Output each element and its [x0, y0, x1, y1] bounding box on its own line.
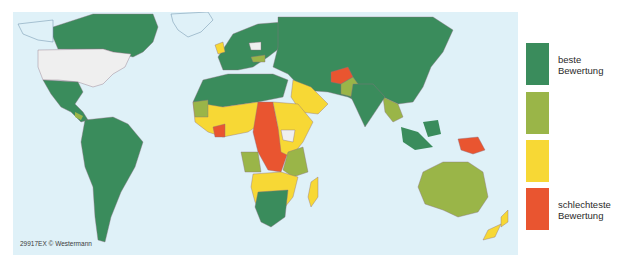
map-credit: 29917EX © Westermann: [20, 240, 92, 247]
legend-label-best-line1: beste: [558, 54, 603, 65]
legend-label-best: beste Bewertung: [558, 54, 603, 76]
world-map-svg: [13, 12, 518, 255]
legend-swatch-poor: [526, 140, 549, 182]
legend-label-worst-line1: schlechteste: [558, 199, 611, 210]
legend-swatch-good: [526, 92, 549, 134]
legend-swatch-best: [526, 43, 549, 85]
legend-label-worst-line2: Bewertung: [558, 210, 611, 221]
legend-swatch-worst: [526, 188, 549, 230]
legend-label-best-line2: Bewertung: [558, 65, 603, 76]
world-map: 29917EX © Westermann: [13, 12, 518, 255]
legend-label-worst: schlechteste Bewertung: [558, 199, 611, 221]
